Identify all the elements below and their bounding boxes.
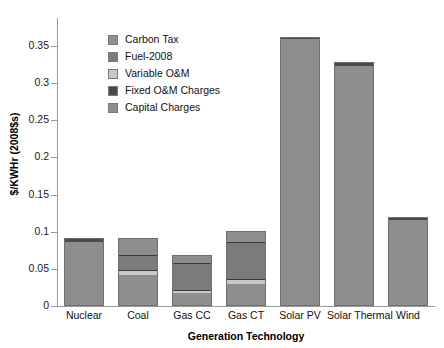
x-axis-label-coal: Coal (111, 309, 165, 321)
bar-segment (119, 238, 157, 255)
legend-label: Fixed O&M Charges (125, 85, 220, 96)
legend-item: Fixed O&M Charges (108, 82, 258, 99)
bar-segment (281, 39, 319, 305)
y-axis-tick-label: 0.15 (0, 189, 49, 200)
bar-gas-cc (172, 255, 212, 306)
legend-item: Carbon Tax (108, 31, 258, 48)
y-axis-tick-label: 0.05 (0, 263, 49, 274)
legend-label: Fuel-2008 (125, 51, 172, 62)
legend-swatch-icon (108, 69, 118, 79)
legend-swatch-icon (108, 35, 118, 45)
y-axis-tick-label: 0.25 (0, 114, 49, 125)
x-axis-label-solar-thermal: Solar Thermal (327, 309, 381, 321)
y-axis-tick-label: 0.1 (0, 226, 49, 237)
bar-segment (65, 242, 103, 305)
bar-segment (119, 255, 157, 271)
legend-label: Variable O&M (125, 68, 190, 79)
x-axis-line (57, 306, 435, 307)
chart-legend: Carbon TaxFuel-2008Variable O&MFixed O&M… (108, 31, 258, 116)
bar-chart: $/KWHr (2008$s) 00.050.10.150.20.250.30.… (0, 0, 444, 348)
bar-segment (227, 284, 265, 305)
x-axis-label-gas-cc: Gas CC (165, 309, 219, 321)
bar-segment (173, 255, 211, 264)
legend-item: Fuel-2008 (108, 48, 258, 65)
bar-segment (227, 279, 265, 284)
legend-item: Variable O&M (108, 65, 258, 82)
bar-segment (173, 290, 211, 293)
bar-segment (65, 238, 103, 242)
y-axis-tick-label: 0.2 (0, 151, 49, 162)
bar-segment (335, 62, 373, 65)
legend-item: Capital Charges (108, 99, 258, 116)
x-axis-label-nuclear: Nuclear (57, 309, 111, 321)
bar-segment (389, 220, 427, 305)
bar-solar-pv (280, 37, 320, 306)
legend-swatch-icon (108, 86, 118, 96)
bar-segment (227, 242, 265, 279)
y-axis-tick (51, 306, 57, 307)
x-axis-label-gas-ct: Gas CT (219, 309, 273, 321)
bar-coal (118, 238, 158, 306)
legend-label: Carbon Tax (125, 34, 179, 45)
legend-swatch-icon (108, 52, 118, 62)
bar-segment (173, 263, 211, 290)
x-axis-title: Generation Technology (57, 330, 435, 342)
bar-segment (389, 217, 427, 220)
bar-segment (227, 231, 265, 242)
bar-gas-ct (226, 231, 266, 306)
bar-segment (173, 293, 211, 305)
bar-solar-thermal (334, 62, 374, 306)
bar-segment (335, 66, 373, 305)
x-axis-label-wind: Wind (381, 309, 435, 321)
y-axis-tick-label: 0.35 (0, 40, 49, 51)
legend-label: Capital Charges (125, 102, 200, 113)
x-axis-label-solar-pv: Solar PV (273, 309, 327, 321)
y-axis-tick-label: 0 (0, 300, 49, 311)
bar-segment (119, 275, 157, 305)
legend-swatch-icon (108, 103, 118, 113)
bar-nuclear (64, 238, 104, 306)
bar-wind (388, 217, 428, 306)
bar-segment (281, 37, 319, 39)
y-axis-tick-label: 0.3 (0, 77, 49, 88)
bar-segment (119, 270, 157, 274)
